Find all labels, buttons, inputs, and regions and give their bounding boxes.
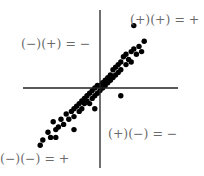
data-point (79, 106, 84, 111)
data-point (56, 124, 61, 129)
data-point (118, 93, 123, 98)
data-point (87, 101, 92, 106)
data-point (48, 135, 53, 140)
data-point (92, 106, 97, 111)
data-point (142, 39, 147, 44)
data-point (58, 117, 63, 122)
data-point (139, 49, 144, 54)
data-point (61, 122, 66, 127)
data-point (118, 59, 123, 64)
data-point (40, 137, 45, 142)
data-point (123, 52, 128, 57)
data-point (136, 44, 141, 49)
data-point (71, 127, 76, 132)
data-point (123, 62, 128, 67)
data-point (131, 46, 136, 51)
data-point (134, 52, 139, 57)
quadrant-label-top-right: (+)(+) = + (130, 14, 199, 27)
data-point (53, 135, 58, 140)
data-point (71, 114, 76, 119)
data-point (63, 111, 68, 116)
data-point (51, 119, 56, 124)
data-point (66, 117, 71, 122)
data-point (45, 130, 50, 135)
data-point (118, 67, 123, 72)
quadrant-label-bottom-left: (−)(−) = + (0, 153, 69, 166)
data-point (129, 59, 134, 64)
quadrant-label-bottom-right: (+)(−) = − (108, 128, 177, 141)
quadrant-label-top-left: (−)(+) = − (21, 38, 90, 51)
data-point (38, 143, 43, 148)
